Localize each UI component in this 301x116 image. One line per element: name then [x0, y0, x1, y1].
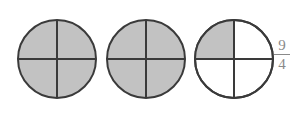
- fraction-denominator: 4: [270, 56, 294, 72]
- circle-2-fully-shaded: [107, 20, 185, 98]
- circle-3-one-quarter-shaded: [195, 20, 273, 98]
- circle-1-fully-shaded: [18, 20, 96, 98]
- fraction-label: 9 4: [270, 37, 294, 72]
- fraction-bar: [274, 54, 290, 55]
- fraction-numerator: 9: [270, 37, 294, 53]
- fraction-circles-diagram: [0, 0, 301, 116]
